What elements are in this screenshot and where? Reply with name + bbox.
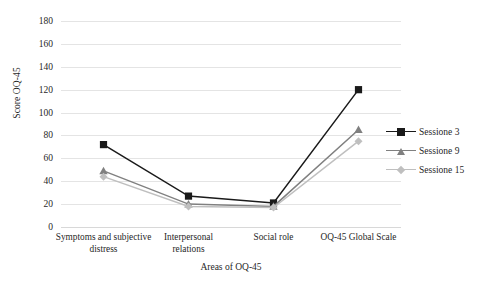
series-sessione-15: [100, 137, 363, 211]
legend-key-icon: [386, 126, 416, 138]
y-axis-tick-label: 20: [44, 199, 54, 209]
series-line: [104, 141, 359, 207]
legend-marker-diamond-icon: [397, 165, 405, 173]
x-axis-tick-label: OQ-45 Global Scale: [307, 232, 410, 244]
chart-legend: Sessione 3Sessione 9Sessione 15: [386, 122, 478, 179]
x-axis-tick-labels: Symptoms and subjectivedistressInterpers…: [61, 232, 401, 266]
chart-container: Score OQ-45 020406080100120140160180 Sym…: [0, 0, 478, 285]
legend-marker-triangle-icon: [397, 148, 405, 155]
y-axis-tick-label: 180: [39, 16, 53, 26]
x-axis-title: Areas of OQ-45: [61, 262, 401, 272]
data-point-marker: [355, 86, 362, 93]
legend-item-3[interactable]: Sessione 15: [386, 160, 478, 179]
y-axis-tick-label: 80: [44, 130, 54, 140]
legend-label: Sessione 3: [416, 127, 459, 137]
legend-label: Sessione 15: [416, 165, 464, 175]
y-axis-tick-label: 120: [39, 85, 53, 95]
x-axis-tick-label-line: OQ-45 Global Scale: [307, 232, 410, 244]
y-axis-tick-label: 100: [39, 108, 53, 118]
series-layer: [61, 21, 401, 227]
y-axis-title: Score OQ-45: [12, 43, 22, 143]
data-point-marker: [185, 193, 192, 200]
data-point-marker: [354, 126, 362, 134]
y-axis-tick-label: 0: [48, 222, 53, 232]
data-point-marker: [100, 141, 107, 148]
gridline: [61, 227, 401, 228]
legend-item-1[interactable]: Sessione 3: [386, 122, 478, 141]
legend-label: Sessione 9: [416, 146, 459, 156]
plot-area: 020406080100120140160180: [61, 21, 401, 227]
series-sessione-9: [99, 126, 362, 210]
x-axis-tick-label-line: relations: [137, 244, 240, 256]
y-axis-tick-label: 60: [44, 153, 54, 163]
y-axis-tick-label: 40: [44, 176, 54, 186]
legend-key-icon: [386, 164, 416, 176]
legend-key-icon: [386, 145, 416, 157]
y-axis-tick-label: 140: [39, 62, 53, 72]
y-axis-tick-label: 160: [39, 39, 53, 49]
legend-marker-square-icon: [397, 128, 405, 136]
legend-item-2[interactable]: Sessione 9: [386, 141, 478, 160]
